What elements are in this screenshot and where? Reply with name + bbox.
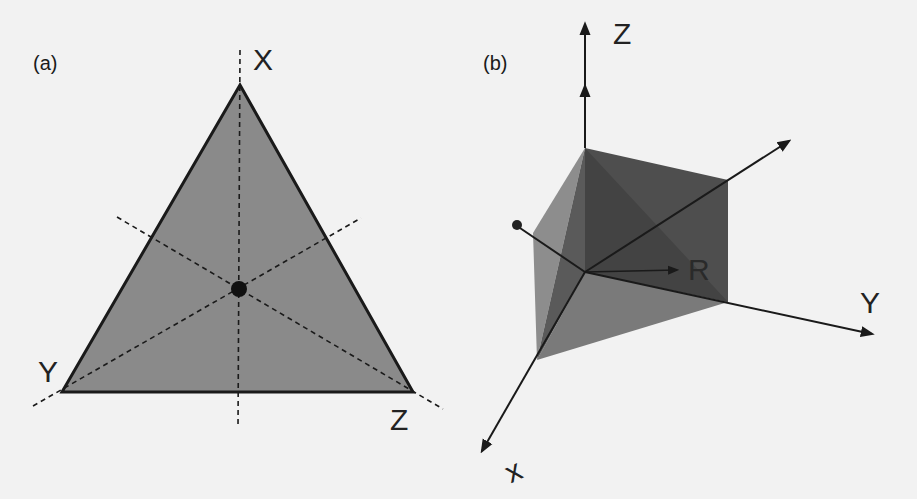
vertex-label-y: Y <box>38 355 58 388</box>
axis-label-z: Z <box>613 17 631 50</box>
axis-label-x: x <box>499 453 527 489</box>
vector-label-r: R <box>688 253 710 286</box>
panel-a: (a) X Y Z <box>33 43 443 436</box>
x-axis <box>482 272 585 451</box>
panel-b: (b) Z Y x R <box>482 17 880 489</box>
figure: (a) X Y Z (b) Z Y x R <box>0 0 917 499</box>
figure-canvas: (a) X Y Z (b) Z Y x R <box>0 0 917 499</box>
ball-point <box>512 220 522 230</box>
vertex-label-z: Z <box>390 403 408 436</box>
centroid-point <box>231 281 247 297</box>
ternary-triangle <box>62 85 413 392</box>
axis-label-y: Y <box>860 286 880 319</box>
vertex-label-x: X <box>253 43 273 76</box>
panel-b-label: (b) <box>483 52 507 74</box>
panel-a-label: (a) <box>33 52 57 74</box>
